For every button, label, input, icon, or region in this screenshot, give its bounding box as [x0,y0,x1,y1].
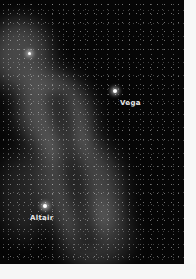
star-field-photo: Vega Altair [0,0,184,264]
star-noise [0,0,184,264]
altair-label: Altair [30,214,54,222]
caption-strip [0,264,196,279]
bright-star [28,52,31,55]
vega-star [113,89,117,93]
page-margin [184,0,196,264]
vega-label: Vega [120,99,141,107]
altair-star [43,204,47,208]
